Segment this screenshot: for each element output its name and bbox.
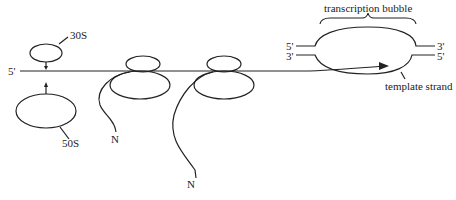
label-dna-bottom-right: 5' [437,50,445,62]
label-n-1: N [111,133,119,145]
template-pointer-line [401,72,405,79]
ribosome-2-small-subunit [207,56,241,72]
label-mrna-5prime: 5' [8,65,16,77]
label-transcription-bubble: transcription bubble [324,2,412,14]
50s-arrow-head-icon [44,82,48,87]
dna-top-strand [296,27,435,46]
30s-pointer-line [59,37,68,44]
free-30s-subunit [30,44,62,62]
ribosome-1-small-subunit [126,56,160,72]
translation-transcription-diagram: 30S 50S 5' N N transcription bubble 5' 3… [0,0,456,200]
label-template-strand: template strand [385,80,453,92]
nascent-chain-1 [99,72,130,132]
free-50s-subunit [16,94,76,128]
label-50s: 50S [62,137,79,149]
30s-arrow-head-icon [44,66,48,70]
mrna-arrow-head-icon [379,62,389,70]
bubble-brace [320,13,416,24]
nascent-chain-2 [173,72,213,178]
label-n-2: N [187,178,195,190]
label-dna-bottom-left: 3' [286,50,294,62]
label-30s: 30S [70,29,87,41]
